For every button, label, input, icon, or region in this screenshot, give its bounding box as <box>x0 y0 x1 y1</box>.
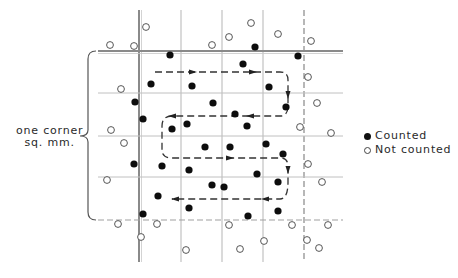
not-counted-dot <box>297 124 304 131</box>
legend-item-counted: Counted <box>364 129 451 143</box>
not-counted-dot <box>104 177 111 184</box>
not-counted-dot <box>118 86 125 93</box>
counted-dots <box>130 43 301 219</box>
arrowhead-icon <box>286 166 291 174</box>
side-label-line2: sq. mm. <box>16 137 83 149</box>
counted-dot <box>209 99 216 106</box>
not-counted-dot <box>319 179 326 186</box>
not-counted-dot <box>275 31 282 38</box>
counted-dot <box>183 120 190 127</box>
counted-dot <box>265 83 272 90</box>
not-counted-dot <box>131 43 138 50</box>
not-counted-dot <box>183 247 190 254</box>
hollow-circle-icon <box>364 147 371 154</box>
counted-dot <box>208 181 215 188</box>
counted-dot <box>188 82 195 89</box>
not-counted-dot <box>325 222 332 229</box>
counted-dot <box>168 125 175 132</box>
not-counted-dot <box>304 237 311 244</box>
counted-dot <box>185 204 192 211</box>
counted-dot <box>282 103 289 110</box>
not-counted-dot <box>209 42 216 49</box>
counted-dot <box>251 43 258 50</box>
not-counted-dot <box>328 130 335 137</box>
arrowhead-icon <box>261 197 269 202</box>
counted-dot <box>185 166 192 173</box>
counted-dot <box>262 140 269 147</box>
legend: Counted Not counted <box>364 129 451 157</box>
counted-dot <box>274 178 281 185</box>
not-counted-dot <box>305 161 312 168</box>
arrowhead-icon <box>168 114 176 119</box>
not-counted-dot <box>237 246 244 253</box>
counted-dot <box>139 210 146 217</box>
counted-dot <box>139 115 146 122</box>
not-counted-dot <box>308 38 315 45</box>
not-counted-dot <box>121 140 128 147</box>
side-label: one corner sq. mm. <box>16 125 83 149</box>
counted-dot <box>274 207 281 214</box>
not-counted-dot <box>107 42 114 49</box>
arrowhead-icon <box>226 156 234 161</box>
counted-dot <box>239 60 246 67</box>
not-counted-dot <box>226 34 233 41</box>
arrowhead-icon <box>249 70 257 75</box>
counted-dot <box>294 52 301 59</box>
arrowhead-icon <box>189 70 197 75</box>
not-counted-dot <box>226 222 233 229</box>
counted-dot <box>147 80 154 87</box>
counted-dot <box>243 122 250 129</box>
counted-dot <box>158 162 165 169</box>
not-counted-dot <box>108 127 115 134</box>
counted-dot <box>154 192 161 199</box>
counted-dot <box>220 183 227 190</box>
arrowhead-icon <box>246 114 254 119</box>
legend-label-counted: Counted <box>375 129 427 143</box>
arrowhead-icon <box>286 91 291 99</box>
not-counted-dot <box>248 20 255 27</box>
legend-item-not-counted: Not counted <box>364 143 451 157</box>
counted-dot <box>130 160 137 167</box>
counted-dot <box>231 110 238 117</box>
not-counted-dot <box>261 238 268 245</box>
not-counted-dot <box>314 100 321 107</box>
counted-dot <box>201 143 208 150</box>
counted-dot <box>279 150 286 157</box>
counted-dot <box>131 98 138 105</box>
not-counted-dot <box>138 234 145 241</box>
counted-dot <box>244 212 251 219</box>
filled-circle-icon <box>364 133 371 140</box>
counted-dot <box>226 143 233 150</box>
counted-dot <box>166 51 173 58</box>
not-counted-dot <box>289 222 296 229</box>
not-counted-dot <box>115 221 122 228</box>
not-counted-dot <box>316 245 323 252</box>
counted-dot <box>253 170 260 177</box>
not-counted-dot <box>154 221 161 228</box>
not-counted-dot <box>305 74 312 81</box>
not-counted-dot <box>143 24 150 31</box>
arrowhead-icon <box>171 197 179 202</box>
legend-label-not-counted: Not counted <box>375 143 451 157</box>
